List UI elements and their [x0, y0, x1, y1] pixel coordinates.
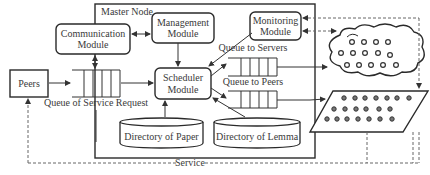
- directory-of-lemma: Directory of Lemma: [214, 118, 300, 148]
- peer-grid: [310, 91, 428, 132]
- queue-to-servers: Queue to Servers: [219, 42, 288, 76]
- queue-to-peers-label: Queue to Peers: [223, 76, 284, 87]
- queue-service-request-label: Queue of Service Request: [44, 97, 148, 108]
- management-module: Management Module: [152, 13, 214, 43]
- directory-of-paper: Directory of Paper: [120, 118, 203, 148]
- svg-text:Management: Management: [157, 17, 209, 28]
- svg-text:Monitoring: Monitoring: [253, 15, 299, 26]
- service-label: Service: [175, 157, 206, 168]
- svg-text:Scheduler: Scheduler: [163, 72, 204, 83]
- scheduler-module: Scheduler Module: [155, 68, 211, 99]
- svg-text:Module: Module: [167, 84, 199, 95]
- svg-text:Directory of Lemma: Directory of Lemma: [216, 131, 299, 142]
- svg-text:Communication: Communication: [61, 28, 125, 39]
- peers-box: Peers: [10, 70, 48, 97]
- svg-text:Peers: Peers: [18, 78, 40, 89]
- server-cloud: [329, 24, 424, 76]
- svg-text:Directory of Paper: Directory of Paper: [124, 131, 199, 142]
- svg-text:Module: Module: [167, 28, 199, 39]
- monitoring-module: Monitoring Module: [250, 12, 301, 40]
- communication-module: Communication Module: [56, 24, 130, 54]
- queue-to-peers: Queue to Peers: [223, 76, 284, 108]
- architecture-diagram: Master Node Communication Module Managem…: [0, 0, 430, 175]
- queue-service-request: Queue of Service Request: [44, 70, 148, 108]
- master-node-label: Master Node: [101, 6, 153, 17]
- svg-text:Module: Module: [260, 26, 292, 37]
- svg-text:Module: Module: [77, 39, 109, 50]
